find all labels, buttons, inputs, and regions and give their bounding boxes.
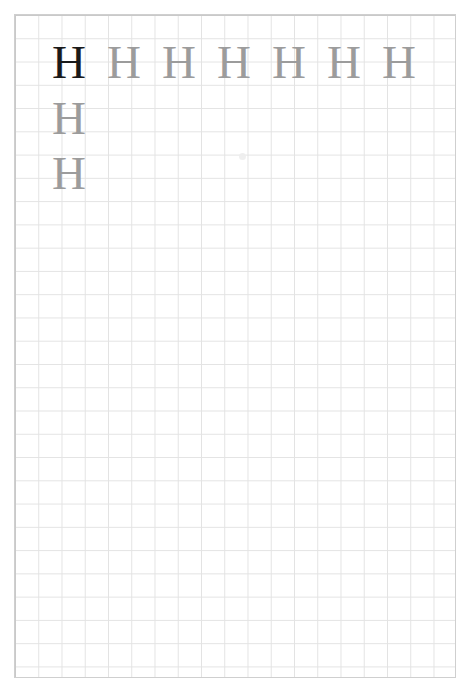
practice-letter-tracing: H bbox=[162, 34, 196, 90]
practice-letter-tracing: H bbox=[382, 34, 416, 90]
practice-letter-tracing: H bbox=[52, 145, 86, 201]
practice-row-3: H bbox=[0, 145, 473, 201]
practice-letter-tracing: H bbox=[327, 34, 361, 90]
worksheet-page: H H H H H H H H H bbox=[0, 0, 473, 687]
practice-row-1: H H H H H H H bbox=[0, 34, 473, 90]
practice-row-2: H bbox=[0, 90, 473, 146]
practice-letter-tracing: H bbox=[272, 34, 306, 90]
practice-letter-tracing: H bbox=[107, 34, 141, 90]
practice-letter-tracing: H bbox=[217, 34, 251, 90]
practice-letter-tracing: H bbox=[52, 90, 86, 146]
practice-letter-model: H bbox=[52, 34, 86, 90]
grid-top-border bbox=[15, 15, 455, 16]
